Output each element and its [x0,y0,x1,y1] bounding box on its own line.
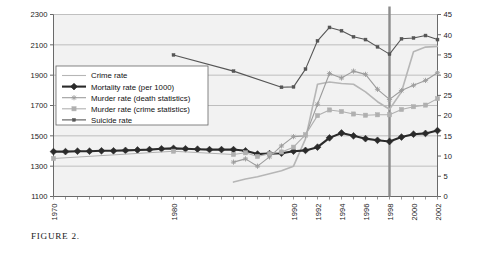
data-point-marker [400,37,403,40]
data-point-marker [351,69,356,74]
data-point-marker [71,95,76,100]
right-axis-tick-label: 35 [444,51,452,60]
data-point-marker [243,156,248,161]
data-point-marker [231,160,236,165]
data-point-marker [231,152,235,156]
data-point-marker [303,133,307,137]
data-point-marker [339,109,343,113]
data-point-marker [387,113,391,117]
data-point-marker [327,108,331,112]
data-point-marker [279,143,284,148]
data-point-marker [243,151,247,155]
data-point-marker [267,152,271,156]
data-point-marker [51,156,55,160]
left-axis-tick-label: 1500 [31,132,48,141]
left-axis-tick-label: 1300 [31,162,48,171]
data-point-marker [375,113,379,117]
legend-label: Murder rate (death statistics) [91,94,191,103]
left-axis-tick-label: 2100 [31,41,48,50]
x-axis-tick-label: 1990 [290,204,299,221]
left-axis-tick-label: 2300 [31,10,48,19]
data-point-marker [424,34,427,37]
x-axis-tick-label: 2002 [434,204,443,221]
data-point-marker [352,35,355,38]
data-point-marker [171,149,175,153]
x-axis-tick-label: 1994 [338,204,347,221]
x-axis-ticks: 197019801990199219941996199820002002 [50,197,443,221]
x-axis-tick-label: 2000 [410,204,419,221]
data-point-marker [232,70,235,73]
right-axis-tick-label: 15 [444,132,452,141]
data-point-marker [412,36,415,39]
x-axis-tick-label: 1970 [50,204,59,221]
data-point-marker [388,53,391,56]
legend: Crime rateMortality rate (per 1000)Murde… [56,66,208,125]
legend-label: Murder rate (crime statistics) [91,105,190,114]
data-point-marker [316,39,319,42]
legend-label: Suicide rate [91,116,132,125]
data-point-marker [73,118,76,121]
data-point-marker [255,164,260,169]
data-point-marker [280,86,283,89]
figure-container: 1100130015001700190021002300051015202530… [0,0,477,254]
x-axis-tick-label: 1992 [314,204,323,221]
data-point-marker [387,97,392,102]
data-point-marker [340,29,343,32]
data-point-marker [327,71,332,76]
x-axis-tick-label: 1996 [362,204,371,221]
data-point-marker [72,107,76,111]
data-point-marker [351,112,355,116]
data-point-marker [423,103,427,107]
data-point-marker [339,75,344,80]
legend-label: Crime rate [91,71,127,80]
data-point-marker [328,26,331,29]
left-axis-tick-label: 1900 [31,71,48,80]
left-axis-tick-label: 1700 [31,101,48,110]
right-axis-tick-label: 10 [444,152,452,161]
data-point-marker [363,72,368,77]
legend-label: Mortality rate (per 1000) [91,83,175,92]
right-axis-tick-label: 25 [444,91,452,100]
data-point-marker [364,38,367,41]
right-axis-tick-label: 40 [444,31,452,40]
right-axis-tick-label: 20 [444,111,452,120]
right-axis-tick-label: 30 [444,71,452,80]
x-axis-tick-label: 1998 [386,204,395,221]
data-point-marker [375,87,380,92]
data-point-marker [291,145,295,149]
data-point-marker [363,113,367,117]
data-point-marker [411,83,416,88]
figure-caption: FIGURE 2. [31,231,80,241]
x-axis-tick-label: 1980 [170,204,179,221]
data-point-marker [255,154,259,158]
data-point-marker [435,97,439,101]
data-point-marker [291,134,296,139]
left-axis-ticks: 1100130015001700190021002300 [31,10,54,201]
right-axis-tick-label: 0 [444,192,448,201]
data-point-marker [411,105,415,109]
data-point-marker [436,38,439,41]
right-axis-ticks: 051015202530354045 [438,10,452,201]
data-point-marker [423,78,428,83]
data-point-marker [315,102,320,107]
data-point-marker [399,107,403,111]
data-point-marker [399,88,404,93]
data-point-marker [376,45,379,48]
right-axis-tick-label: 5 [444,172,448,181]
data-point-marker [315,114,319,118]
data-point-marker [435,70,440,75]
data-point-marker [292,85,295,88]
data-point-marker [172,53,175,56]
left-axis-tick-label: 1100 [31,192,47,201]
data-point-marker [304,68,307,71]
chart-canvas: 1100130015001700190021002300051015202530… [0,0,477,254]
right-axis-tick-label: 45 [444,10,452,19]
data-point-marker [279,150,283,154]
